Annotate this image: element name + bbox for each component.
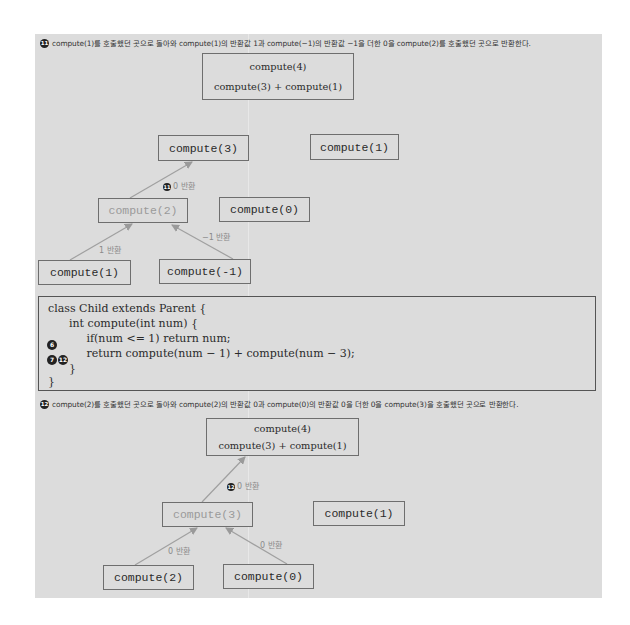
step-badge-icon: 12 (40, 400, 49, 409)
step-badge-icon: 12 (58, 355, 68, 365)
root-compute4-box: compute(4) compute(3) + compute(1) (202, 53, 354, 100)
step11-caption-text: compute(1)를 호출했던 곳으로 돌아와 compute(1)의 반환값… (52, 39, 531, 48)
edge-label-return-neg1: −1 반환 (202, 231, 230, 242)
line4-markers: 712 (47, 349, 69, 368)
node-compute3-faded: compute(3) (162, 502, 253, 527)
code-line-3: if(num <= 1) return num; (48, 332, 231, 345)
code-line-6: } (48, 375, 55, 388)
node-compute0: compute(0) (219, 197, 310, 222)
edge-label-return1: 1 반환 (99, 244, 121, 255)
edge-label-return0-left: 0 반환 (168, 545, 190, 556)
step-badge-icon: 7 (47, 355, 57, 365)
code-line-1: class Child extends Parent { (48, 302, 206, 315)
code-line-2: int compute(int num) { (48, 317, 198, 330)
node-compute1-right-2: compute(1) (313, 501, 405, 526)
root-call-label: compute(4) (250, 61, 307, 72)
step-badge-icon: 12 (227, 483, 235, 491)
step11-caption: 11compute(1)를 호출했던 곳으로 돌아와 compute(1)의 반… (40, 37, 531, 48)
root-expression: compute(3) + compute(1) (214, 81, 342, 92)
node-compute2-faded: compute(2) (98, 198, 188, 223)
step-badge-icon: 11 (40, 39, 49, 48)
node-compute-neg1: compute(-1) (159, 259, 251, 284)
step-badge-icon: 6 (47, 340, 57, 350)
root-compute4-box-2: compute(4) compute(3) + compute(1) (206, 418, 359, 456)
step12-caption: 12compute(2)를 호출했던 곳으로 돌아와 compute(2)의 반… (40, 398, 519, 409)
code-line-4: return compute(num − 1) + compute(num − … (48, 347, 355, 360)
node-compute3: compute(3) (158, 135, 249, 161)
edge-label-return0-right: 0 반환 (260, 539, 282, 550)
node-compute1-left: compute(1) (38, 260, 131, 285)
edge-label-return0-root: 120 반환 (227, 480, 259, 491)
root-expression: compute(3) + compute(1) (218, 440, 346, 451)
step12-caption-text: compute(2)를 호출했던 곳으로 돌아와 compute(2)의 반환값… (52, 400, 519, 409)
edge-label-text: 0 반환 (173, 182, 195, 191)
node-compute0-2: compute(0) (223, 564, 314, 589)
node-compute2: compute(2) (103, 565, 194, 590)
edge-label-return0: 110 반환 (163, 180, 195, 191)
edge-label-text: 0 반환 (237, 482, 259, 491)
node-compute1-right: compute(1) (310, 134, 399, 160)
root-call-label: compute(4) (254, 423, 311, 434)
step-badge-icon: 11 (163, 183, 171, 191)
code-block: class Child extends Parent { int compute… (38, 296, 596, 391)
